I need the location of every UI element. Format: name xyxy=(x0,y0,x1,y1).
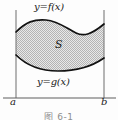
region-label-S: S xyxy=(55,39,63,50)
figure-caption: 图 6-1 xyxy=(0,110,118,120)
upper-curve-label: y=f(x) xyxy=(34,2,64,12)
left-bound-label-a: a xyxy=(10,97,16,107)
lower-curve-label: y=g(x) xyxy=(37,77,70,87)
right-bound-label-b: b xyxy=(101,97,107,107)
